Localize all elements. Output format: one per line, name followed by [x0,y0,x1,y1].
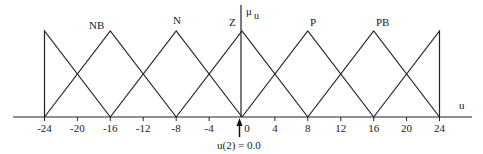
tick-label: 4 [272,122,278,134]
x-axis-label: u [459,99,465,111]
set-nb-triangle [45,31,177,117]
set-p-triangle [242,31,374,117]
tick-label: -4 [205,122,215,134]
tick-label: 24 [434,122,446,134]
y-axis-label-sub: u [254,10,259,21]
tick-label: -12 [136,122,151,134]
tick-label: -8 [172,122,182,134]
tick-label: -24 [37,122,52,134]
tick-label: 8 [305,122,311,134]
set-label-nb: NB [89,19,104,31]
set-label-p: P [310,16,316,28]
input-arrow-icon [237,118,243,137]
set-label-z: Z [229,16,236,28]
set-pb-triangle [308,31,440,117]
set-n-triangle [110,31,242,117]
set-label-n: N [173,14,181,26]
y-axis-label-mu: μ [246,5,252,17]
input-annotation: u(2) = 0.0 [217,139,261,152]
tick-label: 0 [244,122,250,134]
tick-label: -16 [103,122,118,134]
set-label-pb: PB [376,16,389,28]
tick-label: 20 [401,122,413,134]
y-axis-label: μu [246,5,259,21]
tick-label: -20 [70,122,85,134]
set-z-triangle [176,31,308,117]
membership-function-diagram: NB N Z P PB μu u -24 -20 -16 -12 -8 -4 0… [0,0,483,154]
tick-label: 12 [335,122,346,134]
tick-label: 16 [368,122,380,134]
